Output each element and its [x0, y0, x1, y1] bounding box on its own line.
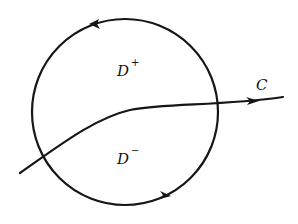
label-d-minus-base: D	[116, 150, 129, 168]
label-d-minus-sup: −	[131, 145, 139, 156]
label-c: C	[256, 76, 268, 94]
contour-diagram: D + D − C	[0, 0, 298, 224]
label-d-minus: D	[116, 150, 129, 168]
curve-c	[20, 97, 283, 173]
label-d-plus-sup: +	[131, 57, 139, 68]
circle-arrow-bottom-icon	[160, 191, 171, 199]
label-d-plus-base: D	[116, 62, 129, 80]
label-d-plus: D	[116, 62, 129, 80]
